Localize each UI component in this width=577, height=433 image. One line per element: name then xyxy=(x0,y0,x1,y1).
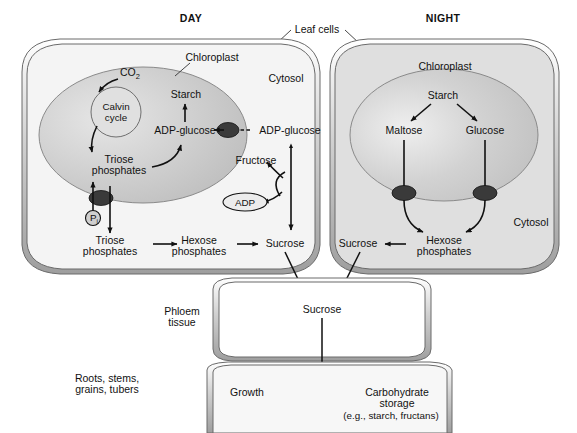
night-cytosol-label: Cytosol xyxy=(513,216,548,228)
storage-label-3: (e.g., starch, fructans) xyxy=(343,410,438,421)
sink-label-2: grains, tubers xyxy=(75,383,139,395)
night-starch-label: Starch xyxy=(428,89,459,101)
night-sucrose-label: Sucrose xyxy=(339,237,378,249)
phloem-tissue: Phloem tissue Sucrose xyxy=(164,278,431,361)
sink-tissue: Roots, stems, grains, tubers Growth Carb… xyxy=(75,362,452,433)
day-cytosol-label: Cytosol xyxy=(268,72,303,84)
leaf-cells-label: Leaf cells xyxy=(295,23,339,35)
diagram-canvas: DAY NIGHT Leaf cells Cytosol Chloroplast… xyxy=(0,0,577,433)
adp-glucose-cytosol-label: ADP-glucose xyxy=(259,124,320,136)
night-chloroplast-label: Chloroplast xyxy=(418,60,471,72)
fructose-label: Fructose xyxy=(236,154,277,166)
day-triose-in-label-2: phosphates xyxy=(92,164,146,176)
day-hexose-label-2: phosphates xyxy=(172,245,226,257)
day-cell: Cytosol Chloroplast Calvin cycle CO2 Tri… xyxy=(22,39,321,274)
sucrose-starch-metabolism-diagram: DAY NIGHT Leaf cells Cytosol Chloroplast… xyxy=(0,0,577,433)
growth-label: Growth xyxy=(230,386,264,398)
phloem-sucrose-label: Sucrose xyxy=(303,303,342,315)
calvin-cycle-label-2: cycle xyxy=(105,112,128,123)
glucose-label: Glucose xyxy=(466,124,505,136)
day-chloroplast xyxy=(39,67,247,203)
night-hexose-label-2: phosphates xyxy=(417,245,471,257)
day-starch-label: Starch xyxy=(171,88,202,100)
adp-glucose-stroma-label: ADP-glucose xyxy=(154,124,215,136)
day-sucrose-label: Sucrose xyxy=(266,237,305,249)
day-chloroplast-label: Chloroplast xyxy=(185,51,238,63)
day-title: DAY xyxy=(180,12,202,24)
night-title: NIGHT xyxy=(426,12,461,24)
storage-label-2: storage xyxy=(379,397,414,409)
adp-label: ADP xyxy=(235,197,256,208)
phloem-label-2: tissue xyxy=(168,316,196,328)
day-triose-out-label-2: phosphates xyxy=(83,245,137,257)
night-cell: Chloroplast Cytosol Starch Maltose Gluco… xyxy=(330,39,559,274)
maltose-transporter xyxy=(392,186,416,201)
glucose-transporter xyxy=(473,186,497,201)
maltose-label: Maltose xyxy=(386,124,423,136)
calvin-cycle-label-1: Calvin xyxy=(102,101,129,112)
